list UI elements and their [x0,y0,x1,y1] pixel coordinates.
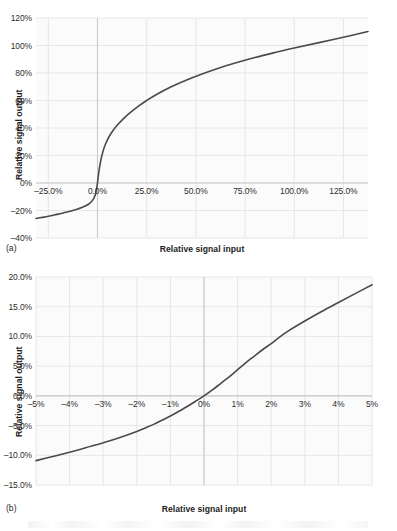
chart-panel-b: –15.0%–10.0%–5.0%0.0%5.0%10.0%15.0%20.0%… [0,265,397,531]
x-tick-label: 0.0% [88,187,107,196]
x-tick-label: 5% [366,400,378,409]
y-tick-label: –10.0% [0,451,32,460]
plot-svg-a [36,18,368,238]
panel-label-b: (b) [6,503,17,513]
x-tick-label: –3% [95,400,112,409]
plot-area-a [36,18,368,238]
y-tick-label: 15.0% [0,302,32,311]
x-tick-label: –4% [61,400,78,409]
x-tick-label: 125.0% [329,187,357,196]
y-tick-label: –40% [0,234,32,243]
figure-container: –40%–20%0%20%40%60%80%100%120% –25.0%0.0… [0,0,397,531]
y-tick-label: –15.0% [0,481,32,490]
y-tick-label: 10.0% [0,332,32,341]
x-axis-title-b: Relative signal input [162,504,247,514]
y-tick-label: 100% [0,41,32,50]
y-tick-label: 120% [0,14,32,23]
x-tick-label: 100.0% [280,187,308,196]
x-tick-label: –1% [162,400,179,409]
y-axis-title-a: Relative signal output [14,90,24,180]
x-tick-label: 1% [232,400,244,409]
x-tick-label: 0% [198,400,210,409]
panel-label-a: (a) [6,243,17,253]
y-tick-label: –20% [0,206,32,215]
x-tick-label: 2% [265,400,277,409]
x-tick-label: 75.0% [233,187,257,196]
x-tick-label: –25.0% [34,187,62,196]
x-tick-label: –2% [128,400,145,409]
plot-area-b [36,277,372,485]
y-tick-label: 80% [0,69,32,78]
chart-panel-a: –40%–20%0%20%40%60%80%100%120% –25.0%0.0… [0,0,397,265]
x-tick-label: 4% [332,400,344,409]
x-tick-label: –5% [28,400,45,409]
x-tick-label: 50.0% [184,187,208,196]
y-axis-title-b: Relative signal output [14,347,24,437]
x-tick-label: 3% [299,400,311,409]
plot-svg-b [36,277,372,485]
axis-lines-b [36,277,372,485]
y-tick-label: 20.0% [0,273,32,282]
x-tick-label: 25.0% [135,187,159,196]
x-axis-title-a: Relative signal input [160,244,245,254]
